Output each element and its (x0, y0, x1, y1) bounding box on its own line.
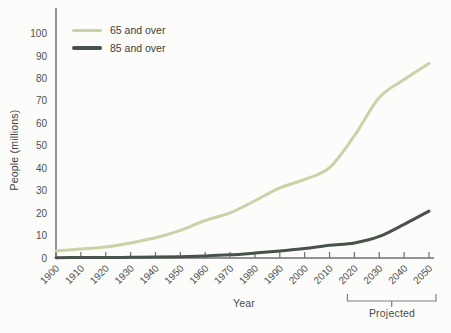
x-tick-label: 1940 (137, 262, 161, 286)
x-tick-label: 2050 (411, 262, 435, 286)
x-tick-label: 2040 (386, 262, 410, 286)
projected-bracket (347, 294, 436, 307)
legend-line-swatch-65-and-over (72, 29, 102, 32)
x-tick-label: 1910 (63, 262, 87, 286)
legend-item-85-and-over: 85 and over (72, 42, 165, 54)
legend-label-85-and-over: 85 and over (110, 42, 165, 54)
x-tick-label: 1980 (237, 262, 261, 286)
y-tick-label: 90 (36, 51, 48, 62)
y-tick-label: 0 (41, 253, 47, 264)
x-tick-label: 2030 (361, 262, 385, 286)
x-tick-label: 1900 (38, 262, 62, 286)
x-tick-label: 2020 (336, 262, 360, 286)
y-axis-title: People (millions) (8, 109, 20, 190)
x-tick-label: 1930 (113, 262, 137, 286)
y-tick-label: 20 (36, 208, 48, 219)
x-tick-label: 2010 (311, 262, 335, 286)
y-tick-label: 60 (36, 118, 48, 129)
x-tick-label: 1990 (262, 262, 286, 286)
legend-line-swatch-85-and-over (72, 46, 102, 50)
x-tick-label: 1970 (212, 262, 236, 286)
projected-annotation-label: Projected (369, 307, 415, 319)
y-tick-label: 10 (36, 230, 48, 241)
legend-label-65-and-over: 65 and over (110, 24, 165, 36)
y-tick-label: 100 (30, 28, 47, 39)
x-tick-label: 2000 (287, 262, 311, 286)
y-tick-label: 30 (36, 185, 48, 196)
chart-canvas: 1900191019201930194019501960197019801990… (0, 0, 451, 333)
population-age-line-chart: 1900191019201930194019501960197019801990… (0, 0, 451, 333)
series-line-65-and-over (56, 63, 429, 251)
x-tick-label: 1920 (88, 262, 112, 286)
legend-item-65-and-over: 65 and over (72, 24, 165, 36)
y-tick-label: 80 (36, 73, 48, 84)
y-tick-label: 40 (36, 163, 48, 174)
x-tick-label: 1950 (162, 262, 186, 286)
x-tick-label: 1960 (187, 262, 211, 286)
legend: 65 and over 85 and over (72, 24, 165, 60)
y-tick-label: 50 (36, 140, 48, 151)
x-axis-title: Year (233, 297, 255, 309)
y-tick-label: 70 (36, 95, 48, 106)
series-line-85-and-over (56, 211, 429, 258)
